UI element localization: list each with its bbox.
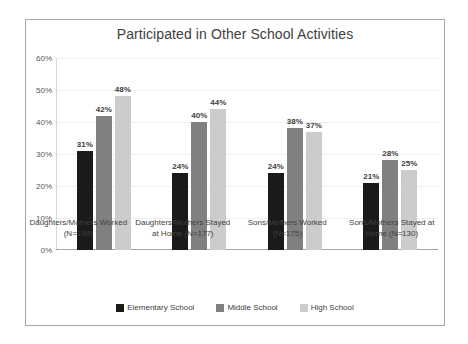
legend-swatch-icon [300, 304, 308, 312]
x-axis-tick-label: Daughters/Mothers Worked (N=199) [26, 214, 131, 239]
x-axis-tick-labels: Daughters/Mothers Worked (N=199)Daughter… [26, 214, 444, 239]
bar-value-label: 37% [306, 121, 322, 130]
bar-value-label: 38% [287, 117, 303, 126]
y-axis-tick-label: 30% [24, 150, 52, 159]
bar-value-label: 42% [96, 105, 112, 114]
legend-item[interactable]: Middle School [216, 303, 277, 312]
y-axis-tick-label: 20% [24, 182, 52, 191]
bar-value-label: 31% [77, 140, 93, 149]
legend-swatch-icon [216, 304, 224, 312]
bar-value-label: 24% [268, 162, 284, 171]
x-axis-tick-label: Sons/Mothers Stayed at Home (N=130) [340, 214, 445, 239]
bar-value-label: 21% [363, 172, 379, 181]
legend-label: Elementary School [127, 303, 194, 312]
y-axis-tick-label: 0% [24, 246, 52, 255]
y-axis-tick-label: 50% [24, 86, 52, 95]
chart-title: Participated in Other School Activities [26, 26, 444, 42]
bar-value-label: 48% [115, 85, 131, 94]
bar-value-label: 25% [401, 159, 417, 168]
legend-item[interactable]: High School [300, 303, 354, 312]
x-axis-tick-label: Sons/Mothers Worked (N=175) [235, 214, 340, 239]
chart-legend: Elementary SchoolMiddle SchoolHigh Schoo… [26, 303, 444, 312]
bar-value-label: 44% [210, 98, 226, 107]
x-axis-tick-label: Daughters/Mothers Stayed at Home (N=177) [131, 214, 236, 239]
legend-swatch-icon [116, 304, 124, 312]
legend-label: Middle School [227, 303, 277, 312]
y-axis-tick-label: 60% [24, 54, 52, 63]
legend-label: High School [311, 303, 354, 312]
legend-item[interactable]: Elementary School [116, 303, 194, 312]
bar-value-label: 40% [191, 111, 207, 120]
bar-value-label: 24% [172, 162, 188, 171]
chart-container: Participated in Other School Activities … [25, 19, 445, 326]
bar-value-label: 28% [382, 149, 398, 158]
y-axis-tick-label: 40% [24, 118, 52, 127]
